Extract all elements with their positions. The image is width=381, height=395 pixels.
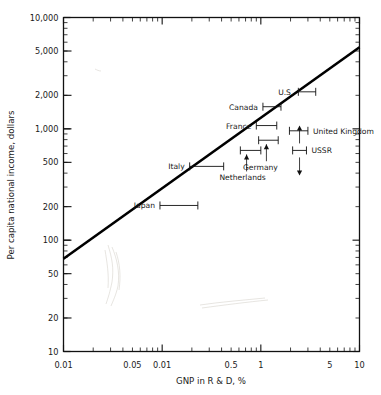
y-axis-title: Per capita national income, dollars	[6, 110, 16, 259]
x-axis-title: GNP in R & D, %	[176, 376, 246, 386]
y-axis-ticks	[64, 18, 360, 352]
y-tick-label: 10,000	[30, 13, 59, 23]
point-label: France	[226, 122, 252, 131]
x-tick-label: 0.01	[153, 360, 171, 370]
data-point-japan[interactable]: Japan	[133, 201, 198, 210]
y-tick-label: 500	[43, 157, 59, 167]
point-label: U.S.	[278, 88, 293, 97]
y-tick-label: 5,000	[35, 46, 58, 56]
data-points: U.S.CanadaFranceUnited KingdomGermanyNet…	[133, 88, 374, 211]
y-tick-label: 10	[48, 347, 58, 357]
y-tick-label: 20	[48, 313, 58, 323]
scatter-chart: 1020501002005001,0002,0005,00010,000 0.0…	[0, 0, 381, 395]
point-label: Italy	[168, 162, 185, 171]
arrow-head-up-icon	[297, 125, 302, 130]
figure-container: 1020501002005001,0002,0005,00010,000 0.0…	[0, 0, 381, 395]
x-tick-label: 10	[354, 360, 364, 370]
x-axis-tick-labels: 0.010.050.010.51510	[54, 360, 364, 370]
point-label: Canada	[229, 103, 258, 112]
x-tick-label: 0.05	[123, 360, 141, 370]
point-label: Germany	[243, 163, 278, 172]
y-tick-label: 50	[48, 269, 58, 279]
point-label: United Kingdom	[313, 127, 374, 136]
data-point-united-kingdom[interactable]: United Kingdom	[289, 127, 373, 136]
y-tick-label: 2,000	[35, 90, 58, 100]
y-axis-tick-labels: 1020501002005001,0002,0005,00010,000	[30, 13, 59, 357]
point-label: Netherlands	[219, 173, 265, 182]
arrow-head-up-icon	[244, 154, 249, 159]
y-tick-label: 200	[43, 202, 59, 212]
plot-frame	[64, 18, 360, 352]
y-tick-label: 100	[43, 235, 59, 245]
x-tick-label: 1	[258, 360, 263, 370]
arrow-head-up-icon	[264, 144, 269, 149]
point-label: USSR	[311, 146, 332, 155]
x-tick-label: 0.5	[225, 360, 238, 370]
arrow-head-down-icon	[297, 170, 302, 175]
point-label: Japan	[133, 201, 155, 210]
y-tick-label: 1,000	[35, 124, 58, 134]
x-tick-label: 5	[327, 360, 332, 370]
x-tick-label: 0.01	[54, 360, 72, 370]
x-axis-ticks	[64, 18, 360, 352]
